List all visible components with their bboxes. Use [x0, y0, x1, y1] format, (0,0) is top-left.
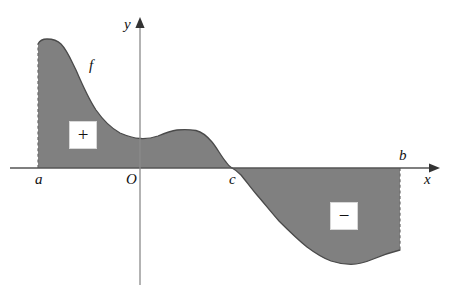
y-axis-label: y: [124, 17, 131, 32]
positive-area-fill: [38, 39, 232, 168]
negative-area-fill: [232, 168, 400, 264]
point-label-c: c: [229, 172, 236, 187]
function-label-f: f: [89, 58, 93, 73]
point-label-a: a: [35, 172, 43, 187]
point-label-b: b: [399, 148, 407, 163]
signed-area-figure: y x O a c b f + −: [0, 0, 449, 301]
y-axis-arrowhead: [135, 17, 144, 28]
origin-label: O: [126, 172, 137, 187]
positive-sign-box: +: [69, 121, 97, 149]
negative-sign-box: −: [330, 202, 358, 230]
figure-canvas: [0, 0, 449, 301]
x-axis-label: x: [424, 172, 431, 187]
